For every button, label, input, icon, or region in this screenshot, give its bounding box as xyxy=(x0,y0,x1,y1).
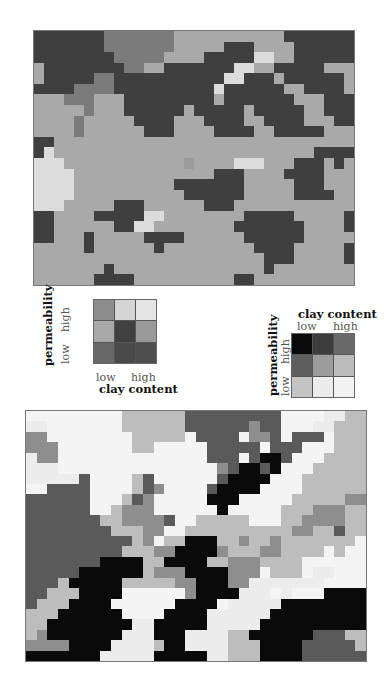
map-cell xyxy=(217,505,228,515)
map-cell xyxy=(294,264,304,275)
map-cell xyxy=(294,31,304,42)
map-cell xyxy=(214,116,224,127)
map-cell xyxy=(304,232,314,243)
map-cell xyxy=(47,432,58,442)
map-cell xyxy=(254,253,264,264)
map-cell xyxy=(114,274,124,285)
map-cell xyxy=(58,494,69,504)
map-cell xyxy=(54,243,64,254)
map-cell xyxy=(69,640,80,650)
map-cell xyxy=(100,599,111,609)
map-cell xyxy=(84,232,94,243)
map-cell xyxy=(244,137,254,148)
map-cell xyxy=(292,640,303,650)
map-cell xyxy=(260,619,271,629)
map-cell xyxy=(84,63,94,74)
map-cell xyxy=(54,179,64,190)
map-cell xyxy=(79,546,90,556)
map-cell xyxy=(294,105,304,116)
map-cell xyxy=(74,169,84,180)
map-cell xyxy=(260,432,271,442)
map-cell xyxy=(154,137,164,148)
map-cell xyxy=(249,421,260,431)
legend-swatch xyxy=(334,334,354,354)
map-cell xyxy=(281,411,292,421)
map-cell xyxy=(94,211,104,222)
map-cell xyxy=(249,546,260,556)
map-cell xyxy=(314,221,324,232)
map-cell xyxy=(84,116,94,127)
map-cell xyxy=(185,411,196,421)
legend-swatch xyxy=(292,334,312,354)
map-cell xyxy=(174,211,184,222)
map-cell xyxy=(104,137,114,148)
map-cell xyxy=(185,463,196,473)
map-cell xyxy=(228,578,239,588)
map-cell xyxy=(175,588,186,598)
map-cell xyxy=(207,474,218,484)
map-cell xyxy=(334,105,344,116)
map-cell xyxy=(175,474,186,484)
map-cell xyxy=(302,505,313,515)
map-cell xyxy=(249,588,260,598)
map-cell xyxy=(224,126,234,137)
map-cell xyxy=(144,179,154,190)
map-cell xyxy=(344,63,354,74)
map-cell xyxy=(244,232,254,243)
map-cell xyxy=(284,94,294,105)
map-cell xyxy=(37,640,48,650)
map-cell xyxy=(132,599,143,609)
map-cell xyxy=(304,94,314,105)
legend-swatch xyxy=(334,377,354,397)
map-cell xyxy=(217,619,228,629)
map-cell xyxy=(34,169,44,180)
map-cell xyxy=(37,609,48,619)
map-cell xyxy=(164,158,174,169)
map-cell xyxy=(34,52,44,63)
map-cell xyxy=(114,94,124,105)
map-cell xyxy=(313,442,324,452)
map-cell xyxy=(302,421,313,431)
map-cell xyxy=(324,526,335,536)
map-cell xyxy=(345,505,356,515)
map-cell xyxy=(154,432,165,442)
map-cell xyxy=(58,557,69,567)
map-cell xyxy=(100,609,111,619)
map-cell xyxy=(134,274,144,285)
map-cell xyxy=(194,158,204,169)
map-cell xyxy=(44,264,54,275)
map-cell xyxy=(294,84,304,95)
map-cell xyxy=(44,126,54,137)
map-cell xyxy=(217,515,228,525)
map-cell xyxy=(207,536,218,546)
map-cell xyxy=(274,200,284,211)
map-cell xyxy=(185,630,196,640)
legend-left-grid xyxy=(93,299,157,364)
map-cell xyxy=(111,505,122,515)
map-cell xyxy=(64,42,74,53)
map-cell xyxy=(54,211,64,222)
map-cell xyxy=(281,536,292,546)
map-cell xyxy=(90,578,101,588)
map-cell xyxy=(334,253,344,264)
map-cell xyxy=(194,243,204,254)
map-cell xyxy=(264,84,274,95)
map-cell xyxy=(47,505,58,515)
map-cell xyxy=(194,190,204,201)
map-cell xyxy=(313,526,324,536)
map-cell xyxy=(281,484,292,494)
map-cell xyxy=(37,411,48,421)
map-cell xyxy=(274,116,284,127)
map-cell xyxy=(100,619,111,629)
map-cell xyxy=(217,640,228,650)
map-cell xyxy=(94,31,104,42)
map-cell xyxy=(94,190,104,201)
map-cell xyxy=(194,42,204,53)
map-cell xyxy=(185,474,196,484)
map-cell xyxy=(154,494,165,504)
map-cell xyxy=(90,536,101,546)
map-cell xyxy=(175,630,186,640)
map-cell xyxy=(334,515,345,525)
map-cell xyxy=(194,169,204,180)
map-cell xyxy=(79,411,90,421)
